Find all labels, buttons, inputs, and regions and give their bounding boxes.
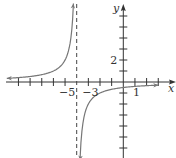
tick-label: 1 — [133, 86, 140, 99]
tick-label: 2 — [110, 54, 117, 67]
x-axis-label: x — [168, 82, 175, 95]
function-graph: x y −5−312 — [0, 0, 176, 158]
y-axis-label: y — [112, 2, 120, 15]
tick-label: −3 — [82, 86, 98, 99]
axes — [6, 4, 176, 158]
tick-label: −5 — [59, 86, 75, 99]
left-branch — [7, 3, 74, 78]
y-axis-arrow — [121, 4, 126, 11]
curves — [7, 3, 158, 158]
